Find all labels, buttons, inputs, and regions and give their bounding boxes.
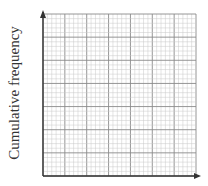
- graph-paper: [0, 0, 208, 186]
- x-axis-arrow-icon: [194, 173, 201, 179]
